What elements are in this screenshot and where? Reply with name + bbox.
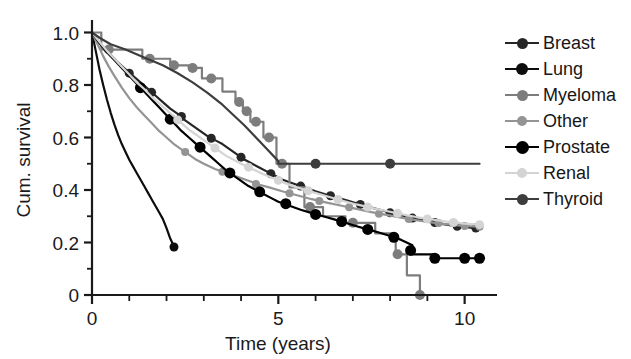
y-tick-label: 1.0 [53,23,79,44]
survival-chart-figure: 00.20.40.60.81.00510 Time (years) Cum. s… [0,0,631,359]
y-tick-label: 0 [68,285,79,306]
legend-item-myeloma[interactable]: Myeloma [505,82,631,108]
censor-marker [474,253,485,264]
censor-marker [286,189,294,197]
censor-marker [315,197,323,205]
censor-marker [429,253,440,264]
censor-marker [449,218,458,227]
censor-marker [251,117,261,127]
y-tick-label: 0.6 [53,128,79,149]
legend-label: Thyroid [543,190,603,208]
censor-marker [459,253,470,264]
censor-marker [206,73,216,83]
tick-label-layer: 00.20.40.60.81.00510 [53,23,476,330]
legend-label: Lung [543,60,583,78]
censor-marker [311,159,321,169]
y-tick-label: 0.8 [53,75,79,96]
censor-marker [362,224,373,235]
legend-dot [517,90,528,101]
legend-item-breast[interactable]: Breast [505,30,631,56]
censor-marker [304,186,313,195]
censor-marker [280,198,291,209]
legend-dot [517,38,528,49]
censor-marker [363,203,372,212]
legend-marker-icon [505,36,539,50]
censor-marker [345,203,353,211]
censor-marker [173,115,182,124]
legend-item-thyroid[interactable]: Thyroid [505,186,631,212]
censor-marker [188,63,198,73]
legend-dot [516,63,528,75]
censor-marker [475,220,484,229]
x-tick-label: 5 [273,308,284,329]
y-axis-title: Cum. survival [13,102,34,217]
censor-marker [310,209,321,220]
legend-label: Renal [543,164,590,182]
censor-marker [264,133,274,143]
legend-dot [517,116,527,126]
legend-item-lung[interactable]: Lung [505,56,631,82]
series-line [92,33,480,259]
censor-marker [169,242,178,251]
legend-label: Myeloma [543,86,616,104]
series-thyroid [92,33,480,169]
censor-marker [393,249,403,259]
series-layer [92,33,485,301]
series-prostate [92,33,485,264]
legend-marker-icon [505,166,539,180]
censor-marker [242,106,252,116]
censor-marker [254,186,265,197]
legend-marker-icon [505,88,539,102]
censor-marker [385,159,395,169]
censor-marker [207,134,216,143]
x-axis-title: Time (years) [225,333,331,354]
x-tick-label: 0 [87,308,98,329]
legend-marker-icon [505,62,539,76]
legend-dot [516,141,529,154]
censor-marker [333,195,342,204]
censor-marker [388,232,399,243]
legend-marker-icon [505,114,539,128]
censor-marker [393,209,402,218]
censor-marker [195,142,206,153]
y-tick-label: 0.4 [53,180,80,201]
legend-item-other[interactable]: Other [505,108,631,134]
censor-marker [224,167,235,178]
chart-legend: BreastLungMyelomaOtherProstateRenalThyro… [505,30,631,212]
censor-marker [423,214,432,223]
legend-marker-icon [505,140,539,154]
y-tick-label: 0.2 [53,233,79,254]
censor-marker [336,216,347,227]
censor-marker [234,97,244,107]
censor-marker [274,176,283,185]
censor-marker [405,245,416,256]
censor-marker [244,163,253,172]
legend-item-renal[interactable]: Renal [505,160,631,186]
legend-dot [517,194,528,205]
legend-label: Breast [543,34,595,52]
legend-dot [517,168,527,178]
censor-marker [237,153,246,162]
legend-item-prostate[interactable]: Prostate [505,134,631,160]
x-tick-label: 10 [454,308,475,329]
series-lung [92,33,178,252]
legend-marker-icon [505,192,539,206]
censor-marker [181,148,189,156]
legend-label: Other [543,112,588,130]
censor-marker [210,144,219,153]
legend-label: Prostate [543,138,610,156]
